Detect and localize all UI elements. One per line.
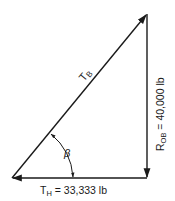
rob-label: ROB = 40,000 lb	[154, 77, 168, 151]
beta-label: β	[63, 147, 71, 159]
force-triangle-diagram: β TB ROB = 40,000 lb TH = 33,333 lb	[0, 0, 175, 201]
th-label: TH = 33,333 lb	[40, 184, 107, 198]
tb-vector-line	[12, 15, 146, 178]
